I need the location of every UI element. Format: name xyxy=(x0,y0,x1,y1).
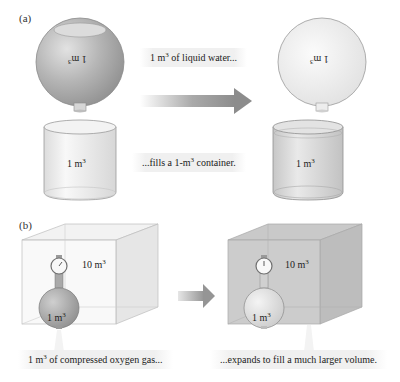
left-beaker-volume: 1 m3 xyxy=(67,158,86,169)
caption-compressed-oxygen: 1 m3 of compressed oxygen gas... xyxy=(18,350,173,369)
right-caption-pointer xyxy=(304,325,314,352)
panel-b-label: (b) xyxy=(19,219,32,231)
panel-b-arrow-icon xyxy=(178,284,215,308)
caption-liquid-water: 1 m3 of liquid water... xyxy=(140,48,247,67)
caption-expands: ...expands to fill a much larger volume. xyxy=(210,350,387,369)
right-tank-volume: 1 m3 xyxy=(252,312,271,323)
left-caption-pointer xyxy=(54,330,64,352)
left-tank-volume: 1 m3 xyxy=(47,312,66,323)
right-beaker-volume: 1 m3 xyxy=(296,158,315,169)
left-flask-filled xyxy=(36,18,124,113)
right-flask-empty xyxy=(278,18,366,113)
left-flask-volume: 1 m3 xyxy=(68,54,87,65)
caption-fills-container: ...fills a 1-m3 container. xyxy=(132,153,246,172)
right-flask-volume: 1 m3 xyxy=(310,54,329,65)
left-cube-volume: 10 m3 xyxy=(82,259,106,270)
panel-a-arrow-icon xyxy=(140,88,252,114)
right-cube-volume: 10 m3 xyxy=(285,259,309,270)
